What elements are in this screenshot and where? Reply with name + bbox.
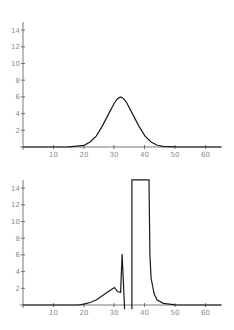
top-chart: 10 20 30 40 50 60 2 4 6 8 10 12 14 [11,22,222,159]
top-y-tick-label: 4 [16,110,21,118]
top-gaussian-curve [23,97,221,147]
bottom-divergent-curve [23,180,221,309]
top-x-tick-label: 60 [201,151,210,159]
bottom-chart: 10 20 30 40 50 60 2 4 6 8 10 12 14 [11,180,222,317]
bottom-x-tick-label: 20 [80,309,89,317]
bottom-y-tick-label: 8 [16,235,20,243]
top-y-tick-label: 2 [16,127,20,135]
top-y-tick-label: 6 [16,93,21,101]
top-y-tick-label: 12 [11,43,20,51]
bottom-x-tick-label: 40 [140,309,149,317]
top-x-tick-label: 50 [171,151,180,159]
top-x-tick-label: 40 [140,151,149,159]
top-x-tick-label: 10 [49,151,58,159]
top-x-tick-label: 20 [80,151,89,159]
bottom-x-tick-label: 50 [171,309,180,317]
bottom-y-tick-label: 4 [16,268,21,276]
figure: 10 20 30 40 50 60 2 4 6 8 10 12 14 [0,0,234,330]
top-y-tick-label: 10 [11,60,20,68]
bottom-y-tick-label: 10 [11,218,20,226]
bottom-x-tick-label: 60 [201,309,210,317]
bottom-y-tick-label: 12 [11,201,20,209]
top-y-tick-label: 8 [16,77,20,85]
bottom-x-tick-label: 10 [49,309,58,317]
bottom-y-tick-label: 6 [16,251,21,259]
top-x-tick-label: 30 [110,151,119,159]
top-y-tick-label: 14 [11,27,20,35]
bottom-x-tick-label: 30 [110,309,119,317]
bottom-y-tick-label: 14 [11,185,20,193]
bottom-y-tick-label: 2 [16,285,20,293]
